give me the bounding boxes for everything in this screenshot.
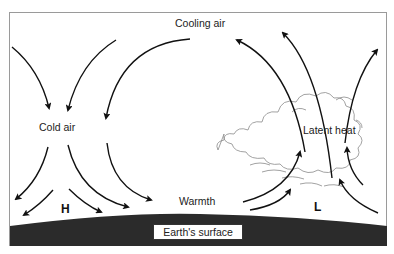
arrow-inflow-3: [340, 180, 378, 213]
arrow-descending-3: [106, 39, 190, 118]
arrow-outflow-4: [68, 145, 128, 207]
arrow-outflow-5: [107, 143, 151, 200]
cold-air-label: Cold air: [39, 121, 75, 133]
latent-heat-label: Latent heat: [303, 124, 356, 136]
warmth-label: Warmth: [179, 195, 215, 207]
low-pressure-label: L: [314, 200, 321, 214]
cloud-icon: [217, 92, 362, 187]
cooling-air-label: Cooling air: [175, 17, 225, 29]
arrow-descending-1: [12, 47, 49, 108]
earths-surface-label: Earth's surface: [153, 224, 243, 240]
arrow-descending-2: [68, 40, 116, 110]
high-pressure-label: H: [61, 202, 70, 216]
arrow-outflow-2: [24, 190, 53, 215]
arrow-inflow-2: [250, 190, 290, 210]
arrow-outflow-1: [16, 147, 48, 199]
